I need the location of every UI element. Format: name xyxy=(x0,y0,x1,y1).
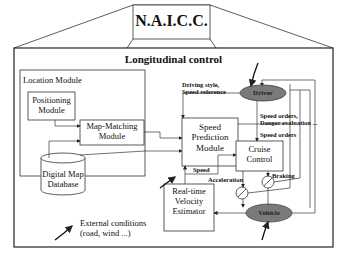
cruise-control: Cruise Control xyxy=(236,145,283,165)
external-conditions-legend: External conditions (road, wind ...) xyxy=(80,219,146,239)
braking-label: Braking xyxy=(272,172,295,179)
speed-label: Speed xyxy=(193,166,210,173)
map-matching-module: Map-Matching Module xyxy=(80,122,144,142)
speed-prediction-module: Speed Prediction Module xyxy=(182,122,238,153)
location-module-label: Location Module xyxy=(23,76,82,86)
diagram-lines xyxy=(0,0,344,256)
velocity-estimator: Real-time Velocity Estimator xyxy=(164,187,214,216)
legend-line-2: (road, wind ...) xyxy=(80,229,146,239)
driver-node: Driver xyxy=(240,89,286,97)
naicc-title: N.A.I.C.C. xyxy=(133,12,210,30)
speed-orders-label-2: Speed orders xyxy=(260,131,296,138)
vehicle-node: Vehicle xyxy=(246,209,292,217)
longitudinal-control-title: Longitudinal control xyxy=(14,53,333,66)
acceleration-label: Acceleration xyxy=(208,176,243,183)
digital-map-database: Digital Map Database xyxy=(41,170,85,190)
positioning-module: Positioning Module xyxy=(28,96,75,116)
speed-reference-label: Speed reference xyxy=(182,88,226,95)
danger-evaluation-label: Danger evaluation ... xyxy=(260,119,317,126)
